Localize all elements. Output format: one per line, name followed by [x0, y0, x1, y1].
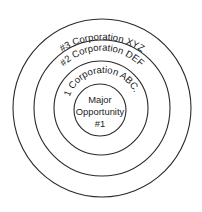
- center-label-line-3: #1: [95, 118, 105, 129]
- center-label-line-2: Opportunity: [76, 106, 125, 117]
- concentric-opportunity-diagram: #3 Corporation XYZ #2 Corporation DEF #1…: [0, 0, 202, 212]
- center-label-line-1: Major: [88, 94, 111, 105]
